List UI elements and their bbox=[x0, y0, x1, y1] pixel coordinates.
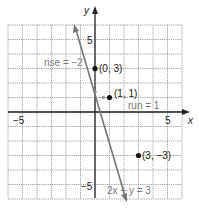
point-label-0-3: (0, 3) bbox=[99, 63, 122, 74]
equation-label: 2x + y = 3 bbox=[107, 185, 151, 196]
y-tick-5: 5 bbox=[87, 35, 93, 46]
run-arrow-icon bbox=[102, 96, 107, 100]
point-label-1-1: (1, 1) bbox=[114, 88, 137, 99]
coordinate-plane: y x 5 −5 −5 5 (0, 3) (1, 1) (3, −3) rise… bbox=[0, 0, 199, 208]
run-label: run = 1 bbox=[128, 100, 160, 111]
y-axis-arrow-icon bbox=[92, 6, 98, 14]
x-axis-label: x bbox=[187, 115, 194, 126]
x-tick-5: 5 bbox=[165, 115, 171, 126]
point-0-3 bbox=[92, 66, 97, 71]
point-1-1 bbox=[107, 95, 112, 100]
point-3-neg3 bbox=[136, 153, 141, 158]
point-label-3-neg3: (3, −3) bbox=[142, 150, 171, 161]
y-tick-neg5: −5 bbox=[81, 181, 93, 192]
line-arrow-top-icon bbox=[73, 24, 79, 33]
y-axis-label: y bbox=[83, 5, 90, 16]
x-tick-neg5: −5 bbox=[13, 115, 25, 126]
line-2x-plus-y-eq-3 bbox=[76, 30, 125, 196]
rise-label: rise = −2 bbox=[44, 57, 83, 68]
